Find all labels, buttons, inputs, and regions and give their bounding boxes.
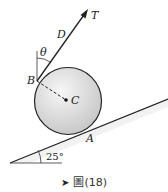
point-a-label: A <box>85 132 94 145</box>
point-d-label: D <box>56 28 66 41</box>
figure-caption: ➤圖(18) <box>0 173 168 189</box>
theta-label: θ <box>40 46 47 59</box>
tension-label: T <box>91 9 100 22</box>
sphere-on-incline-diagram: 25° C θ T D B A <box>0 0 168 192</box>
point-b-label: B <box>26 74 35 87</box>
incline-angle-label: 25° <box>46 151 64 162</box>
flag-arrow-icon: ➤ <box>61 177 69 188</box>
center-label: C <box>71 94 80 107</box>
figure-caption-text: 圖(18) <box>73 176 107 189</box>
sphere <box>35 68 102 135</box>
center-point <box>64 98 68 102</box>
